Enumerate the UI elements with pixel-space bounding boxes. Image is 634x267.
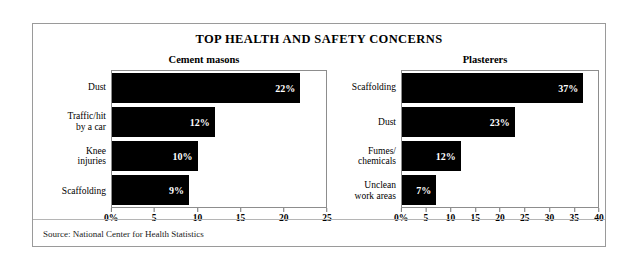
tick-label: 10 <box>446 213 456 223</box>
tick-mark <box>574 208 575 212</box>
category-axis-labels: ScaffoldingDustFumes/ chemicalsUnclean w… <box>329 70 401 208</box>
bar-value-label: 22% <box>275 83 300 94</box>
axis-tick: 25 <box>520 208 530 223</box>
value-axis: 0%510152025 <box>111 208 327 228</box>
axis-tick: 40 <box>594 208 604 223</box>
tick-mark <box>283 208 284 212</box>
bar-row: 12% <box>402 139 598 173</box>
tick-label: 0% <box>104 213 118 223</box>
category-label: Traffic/hit by a car <box>39 105 111 140</box>
tick-mark <box>197 208 198 212</box>
chart-card: TOP HEALTH AND SAFETY CONCERNS Cement ma… <box>32 23 606 247</box>
category-label: Knee injuries <box>39 139 111 174</box>
bar-series: 22%12%10%9% <box>112 71 326 207</box>
tick-label: 35 <box>570 213 580 223</box>
bar-row: 10% <box>112 139 326 173</box>
tick-mark <box>425 208 426 212</box>
bar-value-label: 9% <box>169 185 189 196</box>
tick-mark <box>111 208 112 212</box>
tick-mark <box>524 208 525 212</box>
category-label: Dust <box>329 105 401 140</box>
tick-mark <box>549 208 550 212</box>
bar: 10% <box>112 141 198 171</box>
bar-row: 12% <box>112 105 326 139</box>
axis-ticks: 0%510152025303540 <box>401 208 599 228</box>
chart-subtitle: Cement masons <box>39 54 329 65</box>
tick-label: 25 <box>322 213 332 223</box>
bar: 37% <box>402 73 583 103</box>
axis-tick: 20 <box>279 208 289 223</box>
axis-tick: 10 <box>193 208 203 223</box>
axis-tick: 15 <box>471 208 481 223</box>
tick-mark <box>475 208 476 212</box>
bar: 7% <box>402 175 436 205</box>
bar-row: 7% <box>402 173 598 207</box>
bar-row: 9% <box>112 173 326 207</box>
bar-row: 22% <box>112 71 326 105</box>
bar: 9% <box>112 175 189 205</box>
axis-tick: 5 <box>423 208 428 223</box>
axis-tick: 35 <box>570 208 580 223</box>
category-label: Scaffolding <box>329 70 401 105</box>
axis-tick: 5 <box>152 208 157 223</box>
category-label: Fumes/ chemicals <box>329 139 401 174</box>
tick-mark <box>240 208 241 212</box>
axis-ticks: 0%510152025 <box>111 208 327 228</box>
tick-label: 5 <box>423 213 428 223</box>
tick-label: 20 <box>495 213 505 223</box>
axis-tick: 20 <box>495 208 505 223</box>
bar-value-label: 12% <box>436 151 461 162</box>
tick-label: 15 <box>471 213 481 223</box>
bar: 12% <box>112 107 215 137</box>
tick-label: 40 <box>594 213 604 223</box>
tick-label: 25 <box>520 213 530 223</box>
bar-value-label: 12% <box>190 117 215 128</box>
chart-panel-cement-masons: Cement masons DustTraffic/hit by a carKn… <box>39 54 329 214</box>
tick-label: 20 <box>279 213 289 223</box>
bar: 23% <box>402 107 515 137</box>
bar-value-label: 10% <box>173 151 198 162</box>
bar-value-label: 37% <box>558 83 583 94</box>
plot-wrapper: ScaffoldingDustFumes/ chemicalsUnclean w… <box>329 70 601 214</box>
bar-row: 23% <box>402 105 598 139</box>
bar-series: 37%23%12%7% <box>402 71 598 207</box>
tick-mark <box>599 208 600 212</box>
tick-label: 30 <box>545 213 555 223</box>
tick-label: 0% <box>394 213 408 223</box>
bar-value-label: 23% <box>490 117 515 128</box>
bar-value-label: 7% <box>416 185 436 196</box>
chart-panel-plasterers: Plasterers ScaffoldingDustFumes/ chemica… <box>329 54 601 214</box>
category-axis-labels: DustTraffic/hit by a carKnee injuriesSca… <box>39 70 111 208</box>
bar-row: 37% <box>402 71 598 105</box>
axis-tick: 0% <box>394 208 408 223</box>
axis-tick: 10 <box>446 208 456 223</box>
chart-subtitle: Plasterers <box>329 54 601 65</box>
category-label: Scaffolding <box>39 174 111 209</box>
category-label: Unclean work areas <box>329 174 401 209</box>
plot-area: 37%23%12%7% <box>401 70 599 208</box>
tick-mark <box>450 208 451 212</box>
value-axis: 0%510152025303540 <box>401 208 599 228</box>
source-note: Source: National Center for Health Stati… <box>43 229 204 239</box>
tick-label: 15 <box>236 213 246 223</box>
tick-mark <box>154 208 155 212</box>
tick-label: 10 <box>193 213 203 223</box>
plot-area: 22%12%10%9% <box>111 70 327 208</box>
tick-mark <box>327 208 328 212</box>
page-title: TOP HEALTH AND SAFETY CONCERNS <box>33 32 605 47</box>
tick-mark <box>401 208 402 212</box>
category-label: Dust <box>39 70 111 105</box>
source-divider <box>33 219 605 220</box>
bar: 22% <box>112 73 300 103</box>
axis-tick: 15 <box>236 208 246 223</box>
bar: 12% <box>402 141 461 171</box>
plot-wrapper: DustTraffic/hit by a carKnee injuriesSca… <box>39 70 329 214</box>
tick-mark <box>500 208 501 212</box>
tick-label: 5 <box>152 213 157 223</box>
axis-tick: 30 <box>545 208 555 223</box>
axis-tick: 0% <box>104 208 118 223</box>
